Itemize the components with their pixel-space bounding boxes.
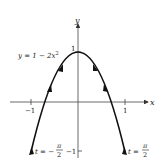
svg-text:2: 2 — [57, 151, 61, 159]
parametric-plot: x y −1 1 1 −1 y = 1 − 2x2 t = − π 2 t = … — [0, 0, 165, 164]
x-tick-label-pos1: 1 — [123, 107, 127, 115]
svg-text:π: π — [56, 142, 62, 150]
t-right-label: t = π 2 — [128, 142, 149, 159]
arrowhead-right-end-icon — [122, 147, 127, 155]
x-axis-label: x — [150, 98, 155, 107]
y-tick-label-pos1: 1 — [71, 45, 75, 53]
t-left-label: t = − π 2 — [35, 142, 63, 159]
svg-text:2: 2 — [143, 151, 147, 159]
y-axis-label: y — [74, 16, 80, 25]
x-tick-label-neg1: −1 — [25, 107, 35, 115]
equation-label: y = 1 − 2x2 — [17, 50, 59, 60]
svg-text:t = −: t = − — [35, 148, 54, 156]
arrowhead-left-end-icon — [29, 147, 34, 155]
svg-text:t =: t = — [128, 148, 139, 156]
y-tick-label-neg1: −1 — [66, 148, 76, 156]
svg-text:π: π — [142, 142, 148, 150]
